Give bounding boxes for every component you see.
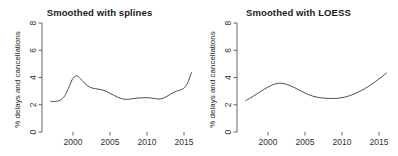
y-tick-label-6-loess: 6: [223, 48, 233, 53]
x-tick-label-2010-loess: 2010: [333, 137, 352, 147]
x-tick-label-2000-splines: 2000: [64, 137, 83, 147]
x-tick-label-2015-loess: 2015: [370, 137, 389, 147]
figure-container: Smoothed with splines % delays and cance…: [0, 0, 398, 156]
x-tick-label-2005-splines: 2005: [101, 137, 120, 147]
plot-area-loess: 0 2 4 6 8 2000 2005 2010 2015: [199, 0, 398, 156]
x-tick-label-2015-splines: 2015: [175, 137, 194, 147]
x-tick-label-2000-loess: 2000: [259, 137, 278, 147]
y-tick-label-2-splines: 2: [28, 102, 38, 107]
panel-splines: Smoothed with splines % delays and cance…: [0, 0, 199, 156]
y-tick-label-2-loess: 2: [223, 102, 233, 107]
y-tick-label-4-splines: 4: [28, 75, 38, 80]
plot-area-splines: 0 2 4 6 8 2000 2005 2010 2015: [0, 0, 199, 156]
y-tick-label-0-splines: 0: [28, 129, 38, 134]
y-tick-label-8-loess: 8: [223, 20, 233, 25]
y-tick-label-0-loess: 0: [223, 129, 233, 134]
y-tick-label-8-splines: 8: [28, 20, 38, 25]
data-line-splines: [51, 73, 192, 102]
data-line-loess: [246, 73, 387, 100]
y-tick-label-4-loess: 4: [223, 75, 233, 80]
panel-loess: Smoothed with LOESS % delays and cancell…: [199, 0, 398, 156]
x-tick-label-2005-loess: 2005: [296, 137, 315, 147]
x-tick-label-2010-splines: 2010: [138, 137, 157, 147]
y-tick-label-6-splines: 6: [28, 48, 38, 53]
